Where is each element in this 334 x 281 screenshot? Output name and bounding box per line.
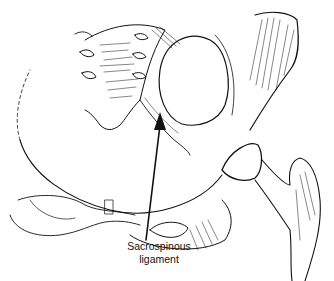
pointer-arrow-line [146, 125, 160, 240]
pelvic-brim [20, 140, 222, 213]
label-line-1: Sacrospinous [118, 240, 200, 253]
acetabulum [222, 144, 262, 181]
greater-sciatic-foramen [159, 36, 228, 125]
anatomical-illustration: Sacrospinous ligament [0, 0, 334, 281]
ilium [250, 12, 298, 130]
sacrum [85, 25, 165, 130]
pelvis-drawing [0, 0, 334, 281]
femur [255, 180, 292, 281]
obturator-foramen [150, 222, 188, 237]
sacrospinous-ligament-label: Sacrospinous ligament [118, 240, 200, 266]
label-line-2: ligament [118, 253, 200, 266]
